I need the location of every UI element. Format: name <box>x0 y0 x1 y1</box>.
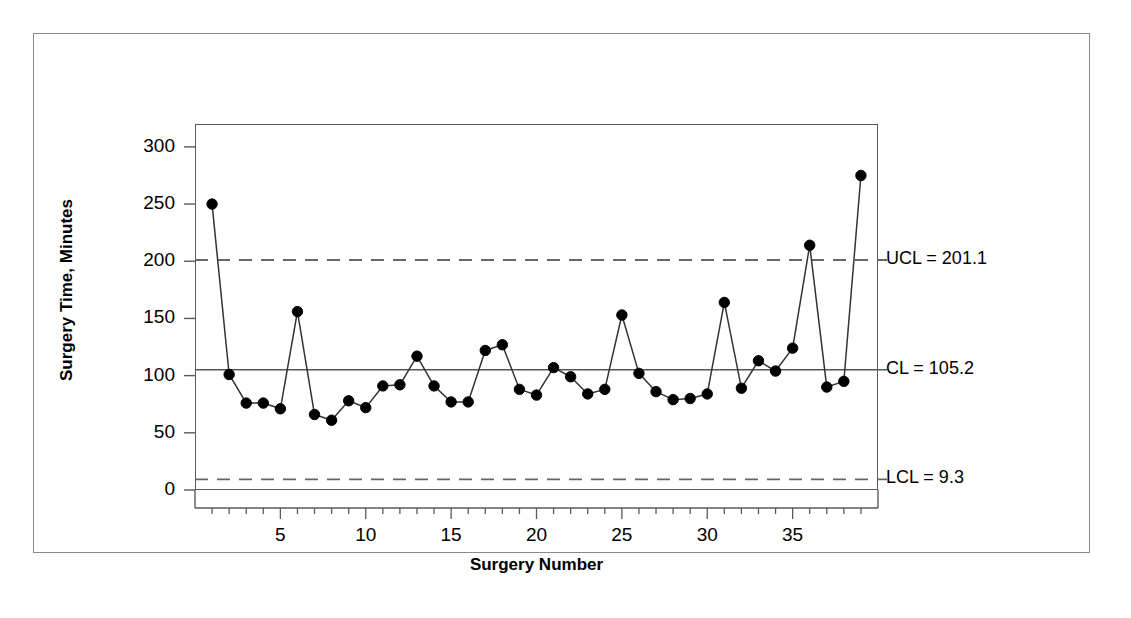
x-tick-label: 10 <box>336 524 396 546</box>
ucl-annotation-label: UCL = 201.1 <box>886 248 987 269</box>
plot-area <box>195 124 878 490</box>
x-tick-label: 5 <box>250 524 310 546</box>
cl-annotation-label: CL = 105.2 <box>886 358 974 379</box>
x-tick-label: 15 <box>421 524 481 546</box>
y-tick-label: 100 <box>115 364 175 386</box>
y-tick-label: 150 <box>115 306 175 328</box>
y-axis-title: Surgery Time, Minutes <box>57 190 77 390</box>
y-tick-label: 200 <box>115 249 175 271</box>
x-axis-title: Surgery Number <box>195 555 878 575</box>
x-tick-label: 35 <box>763 524 823 546</box>
control-chart-figure: 050100150200250300 5101520253035 Surgery… <box>0 0 1131 618</box>
x-tick-label: 25 <box>592 524 652 546</box>
y-tick-label: 0 <box>115 478 175 500</box>
y-tick-label: 50 <box>115 421 175 443</box>
y-tick-label: 250 <box>115 192 175 214</box>
x-tick-label: 20 <box>507 524 567 546</box>
y-tick-label: 300 <box>115 135 175 157</box>
x-tick-label: 30 <box>677 524 737 546</box>
lcl-annotation-label: LCL = 9.3 <box>886 467 964 488</box>
